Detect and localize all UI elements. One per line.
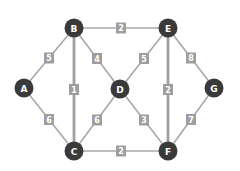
- svg-text:7: 7: [188, 116, 194, 125]
- svg-text:C: C: [71, 147, 78, 157]
- svg-text:D: D: [116, 85, 123, 95]
- edge-weight-A-B: 5: [44, 53, 54, 64]
- edge-weight-E-F: 2: [163, 84, 173, 95]
- weighted-graph-diagram: 562145632872 ABCDEFG: [0, 0, 240, 171]
- svg-text:F: F: [165, 147, 171, 157]
- svg-text:8: 8: [188, 54, 194, 63]
- node-A: A: [15, 79, 34, 98]
- svg-text:2: 2: [118, 147, 124, 156]
- edge-weight-A-C: 6: [44, 114, 54, 125]
- svg-text:6: 6: [94, 116, 100, 125]
- svg-text:1: 1: [71, 86, 77, 95]
- svg-text:B: B: [71, 24, 78, 34]
- edge-weight-C-F: 2: [116, 146, 126, 157]
- svg-text:E: E: [165, 24, 171, 34]
- svg-text:6: 6: [46, 116, 52, 125]
- edge-weight-B-C: 1: [69, 84, 79, 95]
- svg-text:A: A: [21, 84, 28, 94]
- svg-text:5: 5: [141, 55, 147, 64]
- node-B: B: [65, 19, 84, 38]
- edge-weight-E-G: 8: [186, 53, 196, 64]
- edge-weight-D-E: 5: [139, 53, 149, 64]
- node-E: E: [159, 19, 178, 38]
- svg-text:2: 2: [118, 24, 124, 33]
- svg-text:G: G: [210, 84, 217, 94]
- edge-weight-B-D: 4: [92, 53, 102, 64]
- node-D: D: [111, 80, 130, 99]
- edge-weight-D-F: 3: [139, 115, 149, 126]
- svg-text:2: 2: [165, 86, 171, 95]
- edge-weight-B-E: 2: [116, 23, 126, 34]
- svg-text:5: 5: [46, 54, 52, 63]
- svg-text:3: 3: [141, 116, 147, 125]
- node-C: C: [65, 142, 84, 161]
- node-G: G: [205, 79, 224, 98]
- svg-text:4: 4: [94, 55, 100, 64]
- node-F: F: [159, 142, 178, 161]
- edge-weight-G-F: 7: [186, 114, 196, 125]
- edge-weight-D-C: 6: [92, 115, 102, 126]
- nodes-layer: ABCDEFG: [15, 19, 224, 161]
